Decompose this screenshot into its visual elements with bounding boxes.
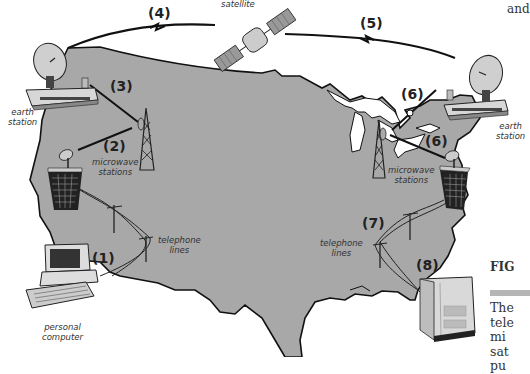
step-2: (2)	[103, 138, 126, 154]
label-line: telephone	[158, 235, 201, 245]
label-line: microwave	[388, 165, 434, 175]
step-6-upper: (6)	[401, 86, 424, 102]
lightning-5	[360, 36, 374, 42]
step-4: (4)	[148, 5, 171, 21]
label-line: lines	[158, 245, 201, 255]
label-line: personal	[42, 322, 83, 332]
sidebar-top-fragment: and	[507, 2, 530, 16]
label-line: stations	[388, 175, 434, 185]
label-line: telephone	[320, 238, 363, 248]
label-personal-computer: personal computer	[42, 322, 83, 342]
label-telephone-east: telephone lines	[320, 238, 363, 258]
text-line: sat	[490, 345, 514, 360]
step-6-lower: (6)	[425, 133, 448, 149]
step-5: (5)	[360, 15, 383, 31]
label-line: earth	[496, 121, 525, 131]
label-line: lines	[320, 248, 363, 258]
body-text-fragment: The tele mi sat pu	[490, 301, 514, 374]
satellite	[212, 6, 297, 74]
label-line: station	[496, 131, 525, 141]
text-line: pu	[490, 359, 514, 374]
mainframe-computer	[420, 277, 475, 342]
text-line: tele	[490, 316, 514, 331]
step-7: (7)	[362, 215, 385, 231]
figure-caption-fragment: FIG	[490, 260, 514, 274]
label-line: station	[8, 117, 37, 127]
label-earth-station-east: earth station	[496, 121, 525, 141]
label-line: earth	[8, 107, 37, 117]
text-line: mi	[490, 330, 514, 345]
label-earth-station-west: earth station	[8, 107, 37, 127]
label-satellite: satellite	[221, 0, 255, 9]
text-line: The	[490, 301, 514, 316]
label-line: computer	[42, 332, 83, 342]
step-3: (3)	[110, 78, 133, 94]
earth-station-east	[444, 51, 508, 120]
step-1: (1)	[92, 250, 115, 266]
label-line: stations	[92, 167, 138, 177]
signal-node	[407, 110, 413, 116]
label-microwave-east: microwave stations	[388, 165, 434, 185]
label-line: microwave	[92, 157, 138, 167]
label-telephone-west: telephone lines	[158, 235, 201, 255]
step-8: (8)	[416, 257, 439, 273]
label-microwave-west: microwave stations	[92, 157, 138, 177]
caption-rule	[490, 290, 530, 296]
personal-computer	[26, 244, 98, 308]
signal-path-4	[68, 24, 215, 48]
